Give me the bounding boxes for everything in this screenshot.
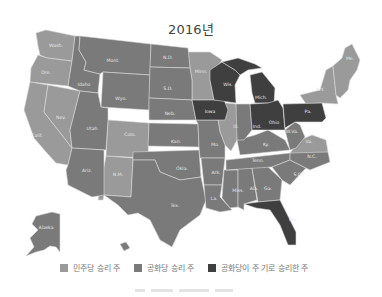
- label-idaho: Idaho: [78, 82, 91, 87]
- legend-item-flipped: 공화당이 주 기로 승리한 주: [208, 262, 308, 273]
- label-ohio: Ohio: [269, 120, 280, 125]
- label-okla: Okla.: [176, 166, 188, 171]
- label-minn: Minn.: [195, 69, 208, 74]
- legend-label-democrat: 민주당 승리 주: [73, 262, 120, 273]
- label-tex: Tex.: [170, 203, 180, 208]
- label-ind: Ind.: [253, 124, 262, 129]
- label-neb: Neb.: [165, 111, 176, 116]
- legend-label-republican: 공화당 승리 주: [147, 262, 194, 273]
- state-alaska[interactable]: [26, 212, 60, 256]
- legend-swatch-democrat: [60, 264, 68, 272]
- legend: 민주당 승리 주 공화당 승리 주 공화당이 주 기로 승리한 주: [60, 262, 322, 273]
- label-tenn: Tenn.: [251, 158, 264, 163]
- label-ky: Ky.: [263, 142, 269, 147]
- state-hawaii[interactable]: [120, 242, 130, 251]
- faded-caption: [135, 289, 285, 295]
- label-la: La.: [211, 196, 218, 201]
- state-new-england[interactable]: [333, 44, 360, 98]
- label-ore: Ore.: [41, 70, 51, 75]
- legend-item-democrat: 민주당 승리 주: [60, 262, 120, 273]
- label-alaska: Alaska: [38, 225, 53, 230]
- label-sc: S.C.: [293, 172, 302, 177]
- label-mo: Mo.: [211, 142, 219, 147]
- legend-swatch-flipped: [208, 264, 216, 272]
- label-nev: Nev.: [56, 115, 66, 120]
- label-me: Me.: [346, 56, 354, 61]
- label-ark: Ark.: [211, 170, 220, 175]
- label-wva: W.Va.: [286, 129, 299, 134]
- label-mont: Mont.: [107, 58, 120, 63]
- label-kan: Kan.: [171, 139, 181, 144]
- label-nd: N.D.: [163, 55, 173, 60]
- label-ariz: Ariz.: [82, 168, 92, 173]
- state-indiana[interactable]: [236, 104, 252, 140]
- legend-label-flipped: 공화당이 주 기로 승리한 주: [221, 262, 308, 273]
- legend-swatch-republican: [134, 264, 142, 272]
- label-nc: N.C.: [307, 154, 317, 159]
- label-wash: Wash.: [49, 43, 63, 48]
- state-south-dakota[interactable]: [149, 67, 192, 100]
- label-ny: N.Y.: [316, 87, 324, 92]
- state-nebraska[interactable]: [149, 98, 196, 120]
- label-sd: S.D.: [163, 86, 172, 91]
- label-fla: Fla.: [289, 217, 297, 222]
- label-iowa: Iowa: [205, 109, 216, 114]
- state-montana[interactable]: [79, 36, 151, 75]
- label-colo: Colo.: [124, 132, 135, 137]
- label-pa: Pa.: [305, 109, 312, 114]
- us-election-map: Wash. Ore. Calif. Nev. Idaho Mont. Wyo. …: [0, 0, 382, 297]
- state-new-york[interactable]: [300, 66, 338, 104]
- legend-item-republican: 공화당 승리 주: [134, 262, 194, 273]
- label-calif: Calif.: [31, 133, 42, 138]
- label-miss: Miss.: [232, 188, 244, 193]
- label-wyo: Wyo.: [115, 96, 126, 101]
- label-ill: Ill.: [233, 124, 238, 129]
- label-wis: Wis.: [223, 82, 233, 87]
- label-va: Va.: [305, 139, 312, 144]
- state-florida[interactable]: [244, 200, 296, 245]
- label-ga: Ga.: [264, 186, 272, 191]
- state-pennsylvania[interactable]: [283, 103, 326, 128]
- label-ala: Ala.: [250, 186, 259, 191]
- state-wyoming[interactable]: [101, 72, 150, 110]
- label-utah: Utah: [87, 126, 98, 131]
- label-nm: N.M.: [113, 172, 123, 177]
- label-mich: Mich.: [255, 95, 267, 100]
